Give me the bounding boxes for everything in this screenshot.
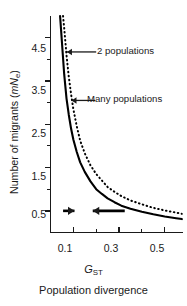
x-tick-label-0-3: 0.3: [98, 243, 124, 254]
x-axis-ticks: [73, 227, 164, 233]
y-axis-title-suffix: ): [8, 70, 20, 74]
x-axis-title-G: G: [84, 263, 93, 275]
x-axis-title-ST: ST: [93, 268, 103, 277]
y-axis-title-e: e: [13, 74, 22, 78]
y-axis-title-N: N: [8, 78, 20, 86]
x-axis-caption: Population divergence: [0, 284, 187, 296]
chart-figure: 4.5 3.5 2.5 1.5 0.5 0.1 0.3 0.5 2 popula…: [0, 0, 187, 306]
arrow-ann-arrow-right-bold: [93, 207, 125, 215]
annotation-many-populations: Many populations: [87, 94, 162, 104]
annotation-2-populations: 2 populations: [97, 46, 154, 56]
y-axis-title-m: m: [8, 86, 20, 95]
x-axis-title: GST: [0, 263, 187, 277]
y-axis-ticks: [45, 38, 51, 211]
arrow-ann-arrow-left-bold: [63, 207, 74, 215]
arrow-ann-2-populations: [67, 49, 96, 55]
x-tick-label-0-1: 0.1: [52, 243, 78, 254]
x-tick-label-0-5: 0.5: [144, 243, 170, 254]
y-axis-title-prefix: Number of migrants (: [8, 94, 20, 194]
y-axis-title: Number of migrants (mNe): [8, 22, 22, 242]
